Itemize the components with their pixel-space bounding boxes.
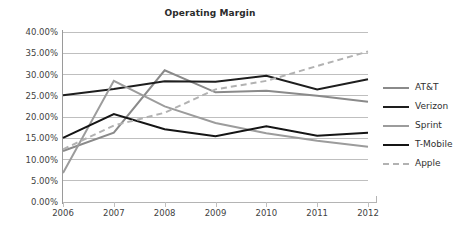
x-tick-mark [165,202,166,207]
y-tick-label: 5.00% [2,176,58,186]
y-axis-tick-labels: 0.00%5.00%10.00%15.00%20.00%25.00%30.00%… [0,32,58,202]
legend-label-t-mobile: T-Mobile [415,140,452,149]
y-tick-label: 35.00% [2,48,58,58]
legend-label-apple: Apple [415,159,441,168]
y-tick-label: 30.00% [2,70,58,80]
legend-label-verizon: Verizon [415,102,448,111]
x-tick-mark [317,202,318,207]
legend-swatch-apple [383,159,409,169]
x-tick-label: 2008 [145,208,185,218]
legend-swatch-at-t [383,83,409,93]
x-tick-label: 2010 [246,208,286,218]
legend-swatch-sprint [383,121,409,131]
plot-area [63,32,368,202]
legend-item-apple[interactable]: Apple [383,154,475,173]
x-tick-mark [216,202,217,207]
y-tick-label: 0.00% [2,197,58,207]
x-tick-mark [63,202,64,207]
x-tick-label: 2006 [43,208,83,218]
legend-item-at-t[interactable]: AT&T [383,78,475,97]
x-tick-mark [114,202,115,207]
series-lines [63,32,368,202]
y-tick-label: 15.00% [2,133,58,143]
legend-item-verizon[interactable]: Verizon [383,97,475,116]
chart-title: Operating Margin [0,8,420,18]
y-tick-label: 10.00% [2,155,58,165]
y-tick-label: 25.00% [2,91,58,101]
x-tick-mark [266,202,267,207]
x-tick-label: 2007 [94,208,134,218]
chart-legend: AT&TVerizonSprintT-MobileApple [383,78,475,173]
x-tick-mark [368,202,369,207]
y-tick-label: 40.00% [2,27,58,37]
x-axis-line [63,202,377,203]
x-axis-tick-labels: 2006200720082009201020112012 [63,208,383,224]
x-tick-label: 2012 [348,208,388,218]
legend-label-at-t: AT&T [415,83,438,92]
legend-swatch-t-mobile [383,140,409,150]
legend-label-sprint: Sprint [415,121,442,130]
operating-margin-chart: Operating Margin 0.00%5.00%10.00%15.00%2… [0,0,476,234]
x-tick-label: 2009 [196,208,236,218]
y-tick-label: 20.00% [2,112,58,122]
x-tick-label: 2011 [297,208,337,218]
x-axis-end-tick [376,196,377,203]
legend-item-t-mobile[interactable]: T-Mobile [383,135,475,154]
legend-swatch-verizon [383,102,409,112]
legend-item-sprint[interactable]: Sprint [383,116,475,135]
